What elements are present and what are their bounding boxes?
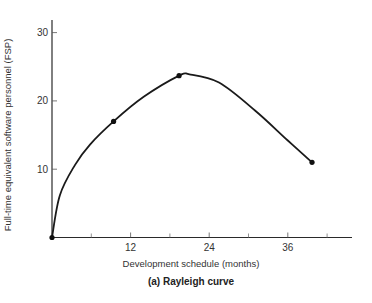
- y-tick-label: 10: [37, 164, 49, 175]
- axes: [52, 20, 352, 238]
- x-ticks: 122436: [91, 233, 327, 253]
- chart-caption: (a) Rayleigh curve: [148, 276, 235, 287]
- y-ticks: 102030: [37, 27, 57, 175]
- data-point-marker: [176, 73, 181, 78]
- y-tick-label: 20: [37, 95, 49, 106]
- data-point-marker: [111, 119, 116, 124]
- x-tick-label: 36: [282, 242, 294, 253]
- data-points: [49, 73, 314, 240]
- data-point-marker: [49, 235, 54, 240]
- x-axis-title: Development schedule (months): [123, 258, 260, 269]
- y-tick-label: 30: [37, 27, 49, 38]
- x-tick-label: 12: [125, 242, 137, 253]
- data-point-marker: [309, 160, 314, 165]
- rayleigh-curve-line: [52, 73, 312, 237]
- y-axis-title: Full-time equivalent software personnel …: [2, 39, 13, 232]
- x-tick-label: 24: [204, 242, 216, 253]
- rayleigh-chart: 102030 122436 Full-time equivalent softw…: [0, 0, 372, 303]
